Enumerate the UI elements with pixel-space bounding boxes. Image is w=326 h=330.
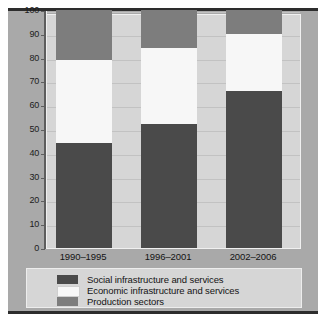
plot-area (45, 14, 301, 249)
legend-label: Production sectors (87, 296, 164, 307)
y-tick-mark (41, 82, 45, 83)
y-tick-label: 0 (34, 244, 39, 253)
bar-2[interactable] (141, 13, 197, 248)
figure: 1009080706050403020100 1990–19951996–200… (0, 0, 326, 330)
y-tick-label: 100 (25, 6, 39, 15)
bar-segment-economic[interactable] (56, 60, 112, 143)
y-tick-label: 30 (29, 173, 39, 182)
plot-inner (46, 15, 300, 248)
bar-segment-production[interactable] (56, 10, 112, 60)
x-tick-label: 1990–1995 (43, 252, 123, 262)
y-tick-mark (41, 11, 45, 12)
y-tick-mark (41, 178, 45, 179)
y-tick-label: 40 (29, 149, 39, 158)
bar-1[interactable] (56, 13, 112, 248)
bar-segment-economic[interactable] (141, 48, 197, 124)
y-tick-label: 50 (29, 125, 39, 134)
y-tick-mark (41, 154, 45, 155)
legend-swatch-icon (57, 275, 78, 284)
y-tick-label: 60 (29, 101, 39, 110)
x-tick-label: 1996–2001 (128, 252, 208, 262)
legend-label: Social infrastructure and services (87, 274, 224, 285)
legend: Social infrastructure and servicesEconom… (26, 268, 302, 308)
y-tick-mark (41, 35, 45, 36)
y-tick-mark (41, 249, 45, 250)
y-tick-mark (41, 225, 45, 226)
bar-segment-social[interactable] (226, 91, 282, 248)
legend-swatch-icon (57, 297, 78, 306)
y-tick-label: 90 (29, 30, 39, 39)
legend-label: Economic infrastructure and services (87, 285, 239, 296)
y-tick-mark (41, 59, 45, 60)
y-tick-mark (41, 106, 45, 107)
bar-segment-production[interactable] (141, 10, 197, 48)
bar-segment-economic[interactable] (226, 34, 282, 91)
y-tick-label: 80 (29, 54, 39, 63)
x-tick-label: 2002–2006 (213, 252, 293, 262)
y-axis-highlight (46, 11, 47, 249)
y-tick-mark (41, 130, 45, 131)
bar-3[interactable] (226, 13, 282, 248)
y-tick-mark (41, 201, 45, 202)
bottom-rule (8, 311, 318, 314)
bar-segment-social[interactable] (56, 143, 112, 248)
y-tick-label: 20 (29, 196, 39, 205)
y-tick-label: 10 (29, 220, 39, 229)
bar-segment-production[interactable] (226, 10, 282, 34)
bar-segment-social[interactable] (141, 124, 197, 248)
legend-swatch-icon (57, 286, 80, 297)
y-tick-label: 70 (29, 77, 39, 86)
